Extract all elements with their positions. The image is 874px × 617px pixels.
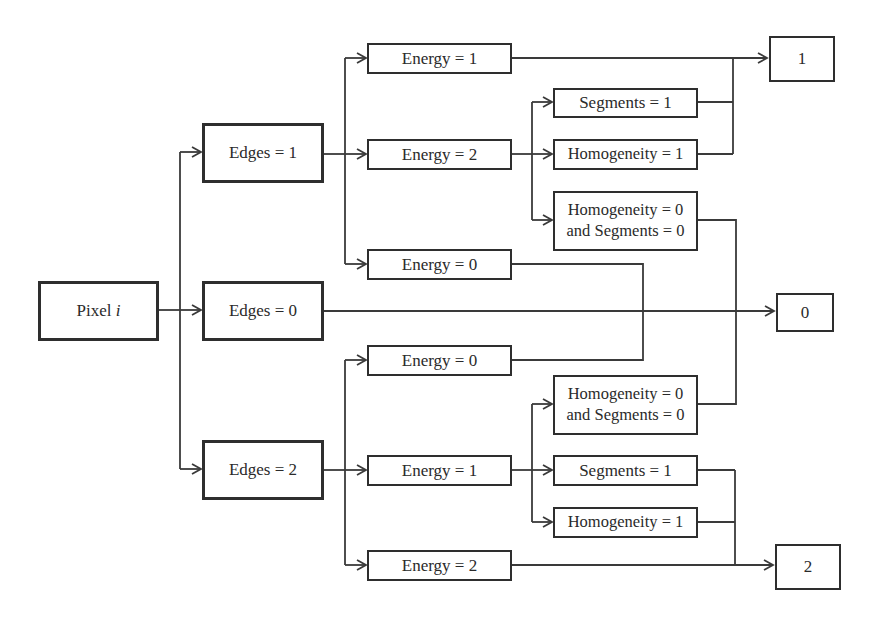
energy-0-node-upper: Energy = 0 — [367, 249, 512, 280]
edges-2-node: Edges = 2 — [202, 440, 324, 500]
energy-0-node-lower: Energy = 0 — [367, 345, 512, 376]
root-node-label: Pixel i — [77, 300, 121, 321]
output-node-2: 2 — [775, 544, 841, 590]
segments-1-node-upper: Segments = 1 — [553, 88, 698, 118]
energy-2-node-lower: Energy = 2 — [367, 550, 512, 581]
decision-tree-diagram: Pixel i Edges = 1 Edges = 0 Edges = 2 En… — [0, 0, 874, 617]
homogeneity-0-segments-0-node-upper: Homogeneity = 0 and Segments = 0 — [553, 191, 698, 251]
homogeneity-1-node-lower: Homogeneity = 1 — [553, 507, 698, 538]
energy-1-node-lower: Energy = 1 — [367, 455, 512, 486]
edges2-to-energy-connectors — [323, 360, 366, 565]
edges1-to-energy-connectors — [323, 58, 366, 264]
root-node-pixel-i: Pixel i — [38, 281, 159, 341]
lower-energy1-to-features-connectors — [511, 404, 552, 522]
output-node-0: 0 — [776, 293, 834, 332]
output-node-1: 1 — [769, 36, 835, 82]
to-output-0-connectors — [323, 220, 774, 404]
segments-1-node-lower: Segments = 1 — [553, 455, 698, 486]
homogeneity-0-segments-0-node-lower: Homogeneity = 0 and Segments = 0 — [553, 375, 698, 435]
edges-1-node: Edges = 1 — [202, 123, 324, 183]
edges-0-node: Edges = 0 — [202, 281, 324, 341]
root-to-edges-connectors — [158, 152, 201, 469]
upper-energy2-to-features-connectors — [511, 102, 552, 220]
homogeneity-1-node-upper: Homogeneity = 1 — [553, 139, 698, 170]
energy-1-node-upper: Energy = 1 — [367, 43, 512, 74]
energy-2-node-upper: Energy = 2 — [367, 139, 512, 170]
